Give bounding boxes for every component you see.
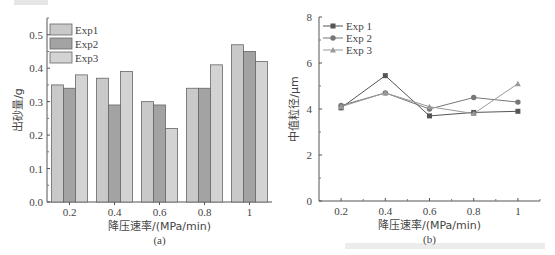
bar-chart-panel-a: 0.00.10.20.30.40.50.20.40.60.81降压速率/(MPa…: [0, 0, 280, 255]
legend: Exp1Exp2Exp3: [50, 24, 99, 64]
line-chart-b: 024680.20.40.60.81降压速率/(MPa/min)(b)中值粒径/…: [280, 0, 555, 255]
circle-marker: [330, 35, 335, 40]
y-tick-label: 0.2: [29, 129, 43, 141]
x-tick-label: 0.6: [153, 206, 167, 218]
x-tick-label: 0.2: [334, 205, 348, 217]
bar-exp3-0.4: [121, 72, 133, 202]
square-marker: [515, 109, 520, 114]
legend: Exp 1Exp 2Exp 3: [323, 20, 372, 56]
x-tick-label: 1: [515, 205, 521, 217]
square-marker: [427, 113, 432, 118]
square-marker: [331, 24, 336, 29]
legend-label: Exp 3: [346, 44, 372, 56]
y-axis-label: 中值粒径/μm: [287, 76, 301, 141]
y-tick-label: 6: [307, 57, 313, 69]
legend-label: Exp3: [75, 52, 99, 64]
x-tick-label: 0.8: [467, 205, 481, 217]
circle-marker: [471, 95, 476, 100]
y-tick-label: 0.5: [29, 29, 43, 41]
bar-exp3-0.6: [166, 128, 178, 202]
panel-label-a: (a): [153, 234, 166, 247]
bar-chart-a: 0.00.10.20.30.40.50.20.40.60.81降压速率/(MPa…: [0, 0, 280, 255]
panel-label-b: (b): [423, 233, 436, 246]
x-tick-label: 0.4: [108, 206, 122, 218]
bar-exp1-0.8: [187, 88, 199, 202]
legend-label: Exp 1: [346, 20, 372, 32]
x-axis-label: 降压速率/(MPa/min): [378, 218, 481, 232]
triangle-marker: [515, 81, 521, 87]
square-marker: [383, 73, 388, 78]
circle-marker: [515, 99, 520, 104]
legend-swatch: [50, 52, 72, 63]
bar-exp1-0.4: [97, 78, 109, 202]
line-chart-panel-b: 024680.20.40.60.81降压速率/(MPa/min)(b)中值粒径/…: [280, 0, 555, 255]
bar-exp1-1: [232, 45, 244, 202]
x-tick-label: 0.6: [423, 205, 437, 217]
legend-swatch: [50, 38, 72, 49]
y-tick-label: 0.3: [29, 96, 43, 108]
x-tick-label: 0.8: [198, 206, 212, 218]
legend-label: Exp1: [75, 24, 98, 36]
bar-exp2-0.8: [199, 88, 211, 202]
bar-exp1-0.2: [52, 85, 64, 202]
y-tick-label: 4: [307, 103, 313, 115]
y-tick-label: 0.1: [29, 163, 43, 175]
bar-exp2-0.4: [109, 105, 121, 202]
bar-exp3-1: [256, 61, 268, 202]
y-tick-label: 8: [307, 11, 313, 23]
bar-exp3-0.2: [76, 75, 88, 202]
x-tick-label: 1: [247, 206, 253, 218]
x-axis-label: 降压速率/(MPa/min): [108, 219, 211, 233]
y-tick-label: 0.0: [29, 196, 43, 208]
x-tick-label: 0.4: [378, 205, 392, 217]
legend-label: Exp2: [75, 38, 98, 50]
bar-exp3-0.8: [211, 65, 223, 202]
bar-exp1-0.6: [142, 102, 154, 202]
y-axis-label: 出砂量/g: [11, 88, 25, 132]
legend-swatch: [50, 24, 72, 35]
y-tick-label: 0.4: [29, 62, 43, 74]
x-tick-label: 0.2: [63, 206, 77, 218]
y-tick-label: 2: [307, 149, 313, 161]
y-tick-label: 0: [307, 195, 313, 207]
bar-exp2-1: [244, 51, 256, 202]
legend-label: Exp 2: [346, 32, 372, 44]
bar-exp2-0.6: [154, 105, 166, 202]
bar-exp2-0.2: [64, 88, 76, 202]
